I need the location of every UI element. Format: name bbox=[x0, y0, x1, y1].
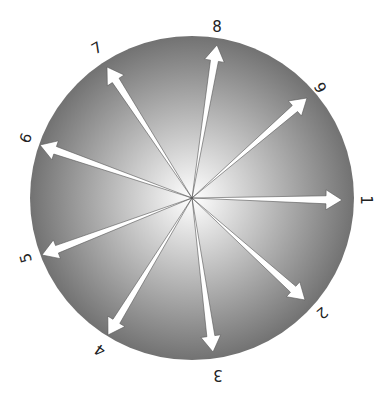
dial-diagram bbox=[0, 0, 387, 397]
arrow-label: 1 bbox=[356, 190, 376, 210]
arrow-label: 8 bbox=[207, 17, 227, 37]
arrow-label: 3 bbox=[208, 365, 228, 385]
